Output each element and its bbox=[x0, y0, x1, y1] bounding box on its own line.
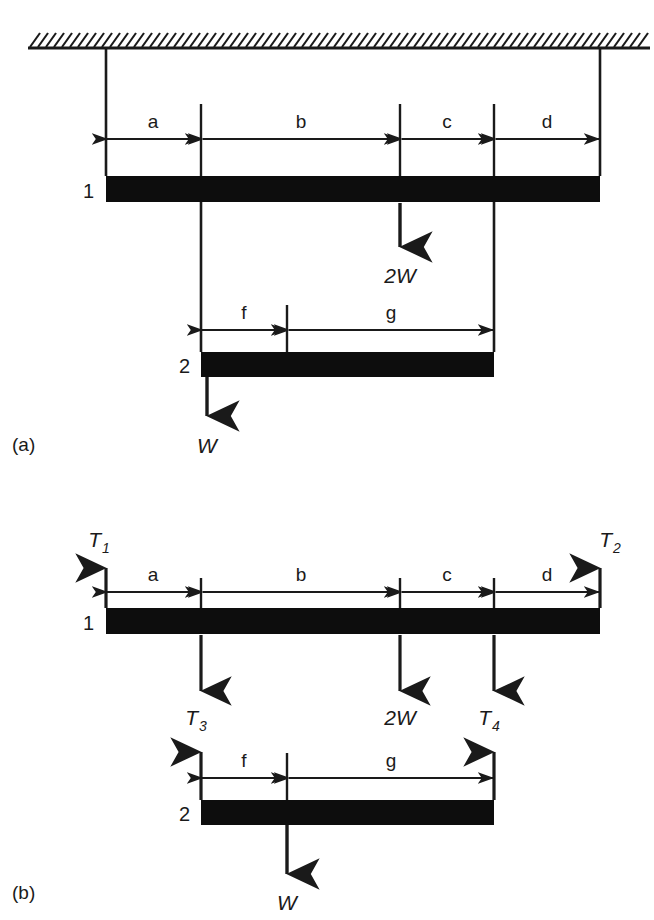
dim-label-a: a bbox=[148, 111, 159, 132]
load-w-label-a: W bbox=[197, 434, 219, 457]
beam-2-b bbox=[201, 800, 494, 825]
dim-label-f-a: f bbox=[241, 302, 247, 323]
dim-label-b-b: b bbox=[296, 564, 307, 585]
hatch-ceiling-icon bbox=[28, 33, 650, 48]
dim-label-d-b: d bbox=[542, 564, 553, 585]
force-t1-label: T1 bbox=[88, 528, 110, 556]
mechanics-figure: a b c d 1 2W f g 2 W (a) bbox=[0, 0, 654, 920]
beam-2-a bbox=[201, 352, 494, 377]
panel-a: a b c d 1 2W f g 2 W (a) bbox=[12, 33, 650, 457]
load-w-label-b: W bbox=[277, 891, 299, 914]
beam-1-a bbox=[106, 176, 600, 202]
dim-label-c: c bbox=[442, 111, 452, 132]
force-t4-label: T4 bbox=[478, 706, 500, 734]
load-2w-label-b: 2W bbox=[383, 706, 418, 729]
panel-b: T1 T2 a b c d 1 T3 2W bbox=[12, 528, 621, 914]
beam-1-label-b: 1 bbox=[83, 612, 94, 634]
beam-2-label-b: 2 bbox=[179, 803, 190, 825]
panel-label-b: (b) bbox=[12, 882, 35, 903]
dim-label-g-a: g bbox=[386, 302, 397, 323]
beam-1-b bbox=[106, 608, 600, 634]
dim-label-d: d bbox=[542, 111, 553, 132]
force-t2-label: T2 bbox=[599, 528, 621, 556]
force-t3-label: T3 bbox=[185, 706, 207, 734]
dim-label-c-b: c bbox=[442, 564, 452, 585]
dim-label-g-b: g bbox=[386, 750, 397, 771]
beam-1-label-a: 1 bbox=[83, 180, 94, 202]
dim-label-f-b: f bbox=[241, 750, 247, 771]
figure-root: a b c d 1 2W f g 2 W (a) bbox=[0, 0, 654, 920]
load-2w-label-a: 2W bbox=[383, 264, 418, 287]
dim-label-b: b bbox=[296, 111, 307, 132]
dim-label-a-b: a bbox=[148, 564, 159, 585]
panel-label-a: (a) bbox=[12, 434, 35, 455]
beam-2-label-a: 2 bbox=[179, 355, 190, 377]
